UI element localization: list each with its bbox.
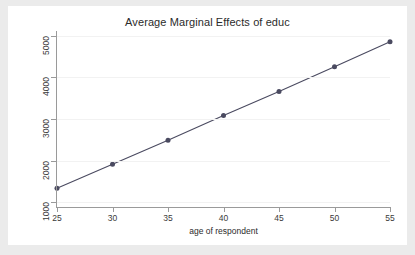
data-point-marker xyxy=(388,39,393,44)
y-tick-mark xyxy=(51,202,56,203)
gridline-horizontal xyxy=(57,36,390,37)
y-tick-mark xyxy=(51,36,56,37)
gridline-horizontal xyxy=(57,161,390,162)
x-tick-mark xyxy=(57,208,58,212)
y-axis-line xyxy=(56,31,57,208)
x-tick-label: 25 xyxy=(42,213,72,223)
y-tick-mark xyxy=(51,161,56,162)
x-tick-mark xyxy=(390,208,391,212)
data-point-marker xyxy=(110,162,115,167)
x-tick-mark xyxy=(335,208,336,212)
x-tick-mark xyxy=(113,208,114,212)
y-tick-mark xyxy=(51,119,56,120)
y-tick-label: 2000 xyxy=(41,161,51,207)
gridline-horizontal xyxy=(57,77,390,78)
x-tick-mark xyxy=(279,208,280,212)
x-tick-label: 30 xyxy=(98,213,128,223)
chart-title: Average Marginal Effects of educ xyxy=(0,16,415,28)
data-point-marker xyxy=(277,89,282,94)
gridline-horizontal xyxy=(57,202,390,203)
x-tick-mark xyxy=(168,208,169,212)
x-tick-label: 40 xyxy=(209,213,239,223)
gridline-horizontal xyxy=(57,119,390,120)
x-axis-title: age of respondent xyxy=(57,226,390,236)
y-tick-label: 5000 xyxy=(41,36,51,82)
x-tick-label: 55 xyxy=(375,213,405,223)
y-tick-mark xyxy=(51,77,56,78)
y-tick-label: 3000 xyxy=(41,119,51,165)
x-tick-label: 50 xyxy=(320,213,350,223)
y-tick-label: 4000 xyxy=(41,77,51,123)
data-point-marker xyxy=(166,138,171,143)
data-point-marker xyxy=(221,113,226,118)
data-point-marker xyxy=(332,64,337,69)
y-tick-label: 1000 xyxy=(41,202,51,248)
x-tick-label: 35 xyxy=(153,213,183,223)
stata-marginal-effects-figure: Average Marginal Effects of educ Effects… xyxy=(0,0,415,255)
x-tick-mark xyxy=(224,208,225,212)
plot-area xyxy=(57,31,390,207)
x-tick-label: 45 xyxy=(264,213,294,223)
